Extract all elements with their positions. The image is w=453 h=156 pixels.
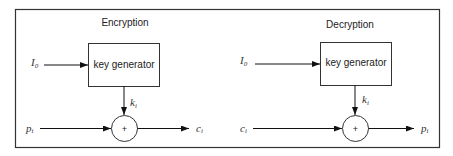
encryption-input-label: pi bbox=[25, 122, 34, 135]
decryption-output-label: pi bbox=[420, 122, 429, 135]
decryption-input-label: ci bbox=[240, 122, 247, 135]
encryption-key-generator-label: key generator bbox=[93, 59, 155, 70]
encryption-key-label: ki bbox=[130, 96, 137, 110]
encryption-iv-label: I0 bbox=[30, 56, 39, 70]
decryption-key-generator-label: key generator bbox=[325, 57, 387, 68]
stream-cipher-diagram: Encryption key generator I0 ki + pi ci D… bbox=[0, 0, 453, 156]
encryption-title: Encryption bbox=[101, 17, 148, 28]
decryption-iv-label: I0 bbox=[239, 54, 248, 68]
encryption-xor-symbol: + bbox=[122, 124, 127, 134]
decryption-panel: Decryption key generator I0 ki + ci pi bbox=[239, 19, 429, 142]
encryption-panel: Encryption key generator I0 ki + pi ci bbox=[25, 17, 203, 142]
decryption-key-label: ki bbox=[362, 93, 369, 107]
decryption-title: Decryption bbox=[326, 19, 374, 30]
decryption-xor-symbol: + bbox=[353, 124, 358, 134]
encryption-output-label: ci bbox=[196, 122, 203, 135]
